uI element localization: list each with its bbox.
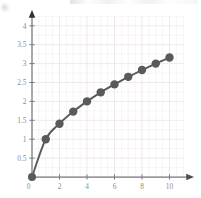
y-tick-label: 2 <box>23 97 27 106</box>
data-point <box>165 53 173 61</box>
data-point <box>55 120 63 128</box>
data-point <box>97 88 105 96</box>
y-tick-label: 1 <box>23 135 27 144</box>
data-point <box>152 59 160 67</box>
x-tick-label: 10 <box>166 182 174 191</box>
y-tick-label: 4 <box>23 22 27 31</box>
y-tick-label: 3 <box>23 59 27 68</box>
data-point <box>138 66 146 74</box>
data-point <box>42 135 50 143</box>
y-axis-tick-labels: 0.511.522.533.54 <box>17 22 27 163</box>
data-point <box>69 107 77 115</box>
x-tick-label: 6 <box>113 182 117 191</box>
x-tick-label: 0 <box>27 182 31 191</box>
x-tick-label: 8 <box>140 182 144 191</box>
x-tick-label: 2 <box>58 182 62 191</box>
chart-figure: 0246810 0.511.522.533.54 <box>0 0 201 198</box>
data-point <box>110 80 118 88</box>
grid-lines <box>32 16 183 177</box>
y-tick-label: 2.5 <box>17 78 27 87</box>
x-axis-tick-labels: 0246810 <box>27 182 174 191</box>
y-tick-label: 3.5 <box>17 40 27 49</box>
x-tick-label: 4 <box>85 182 89 191</box>
data-point <box>83 97 91 105</box>
data-point <box>124 73 132 81</box>
data-point <box>28 173 36 181</box>
axis-lines <box>30 17 188 179</box>
y-tick-label: 0.5 <box>17 154 27 163</box>
plot-area: 0246810 0.511.522.533.54 <box>0 0 201 198</box>
y-tick-label: 1.5 <box>17 116 27 125</box>
